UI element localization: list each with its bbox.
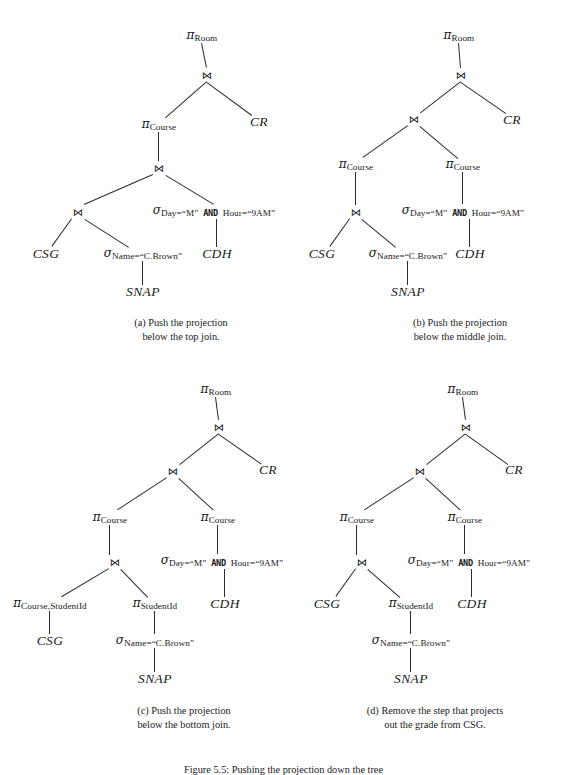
- tree-edge: [364, 477, 414, 510]
- operator-subscript-first: Day=“M”: [416, 558, 458, 568]
- figure-caption: Figure 5.5: Pushing the projection down …: [0, 763, 567, 775]
- operator-keyword-and: AND: [458, 558, 473, 568]
- tree-edge: [356, 525, 357, 555]
- tree-edge: [425, 478, 461, 511]
- tree-edge: [367, 569, 400, 598]
- tree-edge: [426, 433, 466, 465]
- node-relation-snap: SNAP: [394, 672, 428, 686]
- operator-glyph: σ: [372, 633, 380, 647]
- operator-subscript-second: Hour=“9AM”: [473, 558, 530, 568]
- node-sigma-name: σName=“C.Brown”: [372, 634, 450, 648]
- operator-subscript: StudentId: [397, 601, 434, 611]
- node-join-bottom: ⋈: [357, 557, 368, 568]
- operator-glyph: π: [340, 510, 348, 524]
- tree-edge: [471, 569, 472, 597]
- node-pi-course-right: πCourse: [448, 511, 483, 525]
- node-pi-studentid: πStudentId: [389, 597, 434, 611]
- figure-container: πRoom⋈πCourseCR⋈⋈σDay=“M” AND Hour=“9AM”…: [0, 0, 567, 775]
- operator-glyph: π: [448, 510, 456, 524]
- operator-glyph: π: [389, 596, 397, 610]
- tree-edge: [410, 648, 411, 672]
- node-relation-csg: CSG: [314, 597, 341, 611]
- operator-subscript: Name=“C.Brown”: [380, 638, 450, 648]
- panel-d: πRoom⋈⋈CRπCourseπCourse⋈σDay=“M” AND Hou…: [0, 0, 567, 775]
- node-join-middle: ⋈: [415, 466, 426, 477]
- node-sigma-day-hour: σDay=“M” AND Hour=“9AM”: [408, 554, 531, 568]
- tree-edge: [464, 525, 465, 554]
- operator-subscript: Course: [456, 515, 483, 525]
- panel-caption-d: (d) Remove the step that projects out th…: [330, 704, 540, 732]
- operator-subscript: Room: [456, 387, 479, 397]
- tree-edge: [410, 611, 411, 634]
- node-pi-course-left: πCourse: [340, 511, 375, 525]
- operator-glyph: π: [448, 382, 456, 396]
- node-relation-cdh: CDH: [457, 597, 487, 611]
- operator-subscript: Course: [348, 515, 375, 525]
- node-pi-room: πRoom: [448, 383, 479, 397]
- node-join-top: ⋈: [461, 422, 472, 433]
- node-relation-cr: CR: [505, 463, 523, 477]
- tree-edge: [335, 568, 356, 597]
- tree-edge: [462, 397, 466, 420]
- tree-edge: [465, 434, 508, 465]
- operator-glyph: σ: [408, 553, 416, 567]
